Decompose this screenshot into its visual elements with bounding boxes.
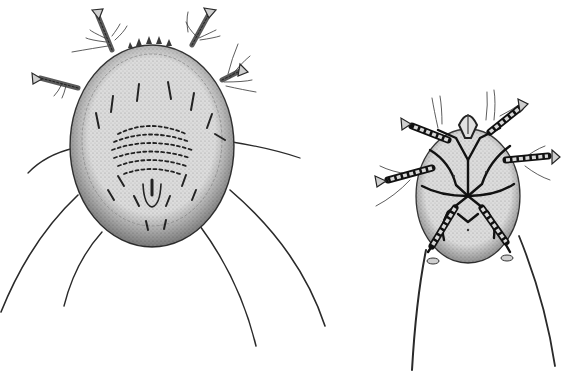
mite-ventral-view (375, 90, 560, 370)
mite-dorsal-view (1, 8, 325, 346)
mites-illustration (0, 0, 569, 374)
illustration-canvas: mite, dorsal view, oval stippled body wi… (0, 0, 569, 374)
